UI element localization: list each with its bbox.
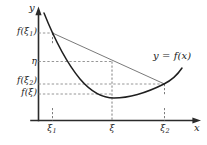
y-tick-label-eta: η — [32, 57, 38, 67]
y-axis-label: y — [29, 3, 35, 13]
figure-canvas: y x f(ξ1) η f(ξ2) f(ξ) ξ1 ξ ξ2 y = f(x) — [0, 0, 207, 145]
x-tick-label-xi: ξ — [99, 124, 125, 134]
x-axis — [31, 117, 201, 123]
y-tick-label-f-xi: f(ξ) — [21, 88, 37, 98]
y-tick-label-f-xi1: f(ξ1) — [17, 27, 37, 37]
x-tick-label-xi1: ξ1 — [39, 124, 65, 134]
secant-line — [53, 33, 165, 84]
x-axis-label: x — [194, 123, 200, 133]
curve-equation-label: y = f(x) — [153, 51, 191, 61]
y-axis-arrowhead — [35, 7, 41, 16]
y-tick-label-f-xi2: f(ξ2) — [17, 76, 37, 86]
x-tick-label-xi2: ξ2 — [152, 124, 178, 134]
